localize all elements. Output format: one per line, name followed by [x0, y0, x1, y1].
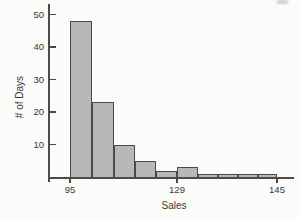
histogram-bar [218, 174, 238, 177]
histogram-bar [198, 174, 218, 177]
x-tick-label: 145 [261, 184, 293, 196]
scan-artifact [277, 0, 288, 4]
y-tick-label: 40 [16, 41, 44, 53]
histogram-bar [238, 174, 258, 177]
y-tick [48, 144, 56, 146]
histogram-bar [70, 21, 92, 177]
histogram-bar [258, 174, 277, 177]
x-tick-label: 95 [54, 184, 86, 196]
x-tick-label: 129 [161, 184, 193, 196]
histogram-bar [135, 161, 156, 177]
histogram-figure: # of Days Sales 102030405095129145 [0, 0, 299, 219]
x-tick [176, 177, 178, 183]
histogram-bar [156, 171, 177, 178]
y-tick [48, 111, 56, 113]
histogram-bar [92, 102, 114, 177]
x-axis-title: Sales [144, 200, 204, 212]
histogram-bar [177, 167, 198, 177]
histogram-bar [114, 145, 135, 178]
y-tick-label: 20 [16, 106, 44, 118]
x-tick [69, 177, 71, 183]
y-tick [48, 79, 56, 81]
y-axis-line [48, 4, 50, 182]
y-tick-label: 50 [16, 9, 44, 21]
y-tick-label: 10 [16, 139, 44, 151]
y-tick [48, 46, 56, 48]
y-tick [48, 14, 56, 16]
x-axis-line [48, 177, 294, 179]
y-tick-label: 30 [16, 74, 44, 86]
x-tick [276, 177, 278, 183]
